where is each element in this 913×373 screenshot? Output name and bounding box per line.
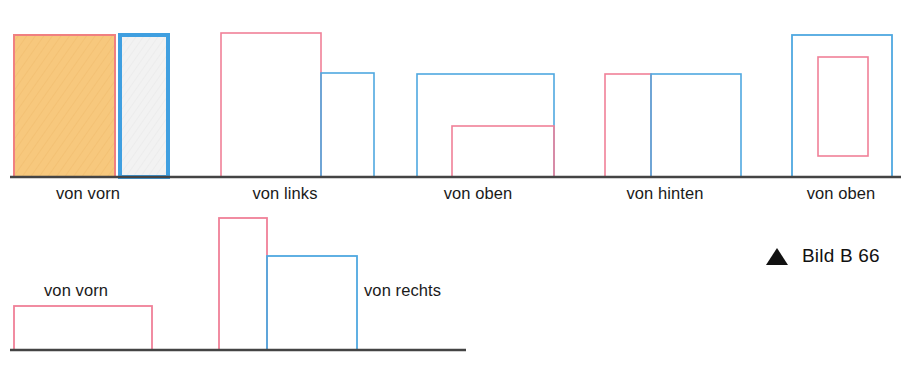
blue-outlined-rect: [120, 35, 168, 177]
view-label-von-hinten: von hinten: [626, 184, 703, 203]
pink-lower-rect: [452, 126, 554, 177]
group-6-von-vorn: [14, 306, 152, 350]
view-label-von-oben-right: von oben: [807, 184, 876, 203]
blue-short-rect: [321, 73, 374, 177]
orange-filled-rect: [14, 35, 115, 177]
figure-caption: Bild B 66: [766, 245, 880, 267]
pink-flat-rect: [14, 306, 152, 350]
group-3-von-oben: [417, 74, 554, 177]
technical-drawing-figure: von vorn von links von oben von hinten v…: [0, 0, 913, 373]
blue-right-rect: [651, 74, 741, 177]
view-label-von-links: von links: [252, 184, 317, 203]
triangle-up-icon: [766, 248, 788, 265]
group-5-von-oben: [792, 35, 892, 177]
group-7-von-rechts: [219, 218, 357, 350]
pink-tall-rect: [219, 218, 267, 350]
group-4-von-hinten: [605, 74, 741, 177]
view-label-von-vorn: von vorn: [56, 184, 120, 203]
group-2-von-links: [221, 33, 374, 177]
pink-left-rect: [605, 74, 651, 177]
view-label-von-vorn-bottom: von vorn: [44, 281, 108, 300]
pink-tall-rect: [221, 33, 321, 177]
view-label-von-rechts: von rechts: [364, 281, 441, 300]
blue-wide-rect: [267, 256, 357, 350]
group-1-von-vorn: [14, 35, 168, 177]
figure-caption-text: Bild B 66: [802, 245, 880, 267]
view-label-von-oben: von oben: [444, 184, 513, 203]
pink-inner-rect: [818, 57, 868, 156]
